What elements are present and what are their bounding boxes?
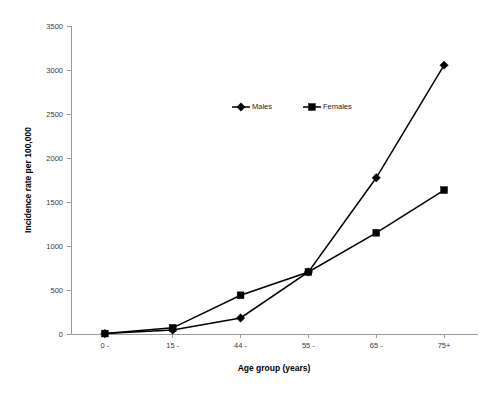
data-point-females-5: [441, 187, 448, 194]
data-point-females-1: [169, 324, 176, 331]
data-point-males-5: [440, 61, 448, 69]
legend-item-males: Males: [232, 102, 272, 111]
data-point-females-2: [237, 292, 244, 299]
chart-legend: MalesFemales: [232, 102, 352, 111]
x-tick-label: 44 -: [234, 341, 247, 350]
x-tick-label: 15 -: [166, 341, 179, 350]
line-chart: 0500100015002000250030003500 0 -15 -44 -…: [0, 0, 499, 393]
x-axis-ticks: 0 -15 -44 -55 -65 -75+: [101, 334, 452, 350]
y-tick-label: 500: [50, 286, 63, 295]
legend-marker-males: [237, 103, 245, 111]
data-point-males-2: [236, 314, 244, 322]
series-males: [101, 61, 449, 338]
legend-item-females: Females: [303, 102, 352, 111]
y-axis-title: Incidence rate per 100,000: [23, 127, 33, 233]
y-axis-ticks: 0500100015002000250030003500: [46, 22, 71, 339]
series-group: [101, 61, 449, 338]
legend-label-males: Males: [252, 102, 272, 111]
x-tick-label: 0 -: [101, 341, 110, 350]
chart-figure: 0500100015002000250030003500 0 -15 -44 -…: [0, 0, 499, 393]
series-females: [102, 187, 448, 337]
x-tick-label: 65 -: [370, 341, 383, 350]
y-tick-label: 3500: [46, 22, 63, 31]
y-tick-label: 1500: [46, 198, 63, 207]
series-line-females: [105, 190, 444, 333]
x-tick-label: 75+: [438, 341, 451, 350]
x-axis-title: Age group (years): [238, 363, 311, 373]
y-tick-label: 2500: [46, 110, 63, 119]
series-line-males: [105, 65, 444, 333]
data-point-females-3: [305, 269, 312, 276]
x-tick-label: 55 -: [302, 341, 315, 350]
legend-marker-females: [309, 104, 316, 111]
data-point-females-0: [102, 330, 109, 337]
y-tick-label: 2000: [46, 154, 63, 163]
legend-label-females: Females: [323, 102, 352, 111]
y-tick-label: 0: [59, 330, 63, 339]
y-tick-label: 1000: [46, 242, 63, 251]
data-point-females-4: [373, 229, 380, 236]
y-tick-label: 3000: [46, 66, 63, 75]
